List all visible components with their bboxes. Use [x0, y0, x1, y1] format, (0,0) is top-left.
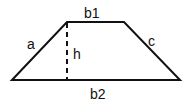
trapezoid-diagram: b1 b2 a c h: [0, 0, 185, 104]
label-h: h: [73, 46, 81, 62]
label-c: c: [148, 33, 155, 49]
label-b1: b1: [84, 5, 100, 21]
label-b2: b2: [90, 86, 106, 102]
label-a: a: [27, 36, 35, 52]
trapezoid-outline: [12, 22, 180, 80]
